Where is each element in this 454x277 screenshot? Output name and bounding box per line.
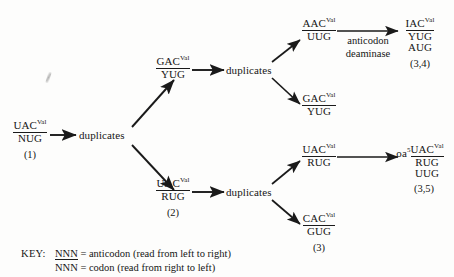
amino-acid-superscript: Val — [326, 16, 336, 24]
key-label: KEY: — [21, 248, 46, 259]
extra-codon-text: AUG — [406, 42, 435, 54]
node-gac-yug-top: GACVal YUG — [153, 56, 193, 82]
node-uac-rug-branch: UACVal RUG — [299, 144, 339, 170]
codon-pair: UACVal RUG UUG — [411, 144, 444, 180]
edge-duplicates-to-gac-yug-branch — [272, 78, 300, 104]
edge-duplicates-to-uac-rug-branch — [272, 161, 300, 184]
amino-acid-superscript: Val — [326, 91, 336, 99]
node-oa5-uac-rug-uug: oa5 UACVal RUG UUG (3,5) — [392, 144, 448, 194]
node-uac-rug-mid: UACVal RUG (2) — [153, 178, 193, 218]
key-symbol-anticodon: NNN — [55, 248, 78, 260]
codon-pair: GACVal YUG — [156, 56, 189, 80]
anticodon-text: UACVal — [302, 144, 335, 157]
amino-acid-superscript: Val — [434, 142, 444, 150]
extra-codon-text: UUG — [411, 168, 444, 180]
codon-text: GUG — [303, 226, 336, 238]
amino-acid-superscript: Val — [326, 211, 336, 219]
key-rows: NNN = anticodon (read from left to right… — [55, 247, 231, 274]
codon-text: RUG — [302, 157, 335, 169]
edge-duplicates-to-aac-uug — [272, 40, 300, 62]
edge-label-anticodon-deaminase: anticodon deaminase — [330, 35, 406, 60]
node-iac-yug-aug: IACVal YUG AUG (3,4) — [399, 18, 441, 69]
anticodon-text: GACVal — [302, 93, 335, 106]
modified-base-prefix: oa5 — [396, 147, 410, 159]
node-duplicates-top: duplicates — [226, 64, 272, 76]
edge-duplicates-to-cac-gug — [272, 200, 300, 224]
codon-pair: UACVal RUG — [302, 144, 335, 168]
key-row-anticodon: NNN = anticodon (read from left to right… — [55, 247, 231, 261]
edge-duplicates-to-gac-yug — [132, 80, 174, 127]
anticodon-text: UACVal — [411, 144, 444, 157]
diagram-canvas: UACVal NUG (1) duplicates GACVal YUG dup… — [0, 0, 454, 277]
anticodon-text: UACVal — [13, 120, 46, 133]
amino-acid-superscript: Val — [425, 16, 435, 24]
codon-pair: CACVal GUG — [303, 213, 336, 237]
amino-acid-superscript: Val — [37, 118, 47, 126]
key-text-codon: = codon (read from right to left) — [80, 262, 215, 273]
node-gac-yug-branch: GACVal YUG — [299, 93, 339, 119]
anticodon-text: UACVal — [156, 178, 189, 191]
reference-label: (3) — [299, 239, 339, 253]
reference-label: (1) — [8, 146, 52, 160]
anticodon-text: AACVal — [302, 18, 335, 31]
codon-text: YUG — [302, 106, 335, 118]
scan-artifact — [45, 72, 51, 83]
reference-label: (2) — [153, 204, 193, 218]
amino-acid-superscript: Val — [180, 54, 190, 62]
anticodon-text: IACVal — [406, 18, 435, 31]
codon-pair: UACVal NUG — [13, 120, 46, 144]
codon-pair: GACVal YUG — [302, 93, 335, 117]
node-cac-gug: CACVal GUG (3) — [299, 213, 339, 253]
key-symbol-codon: NNN — [55, 262, 78, 273]
key-row-codon: NNN = codon (read from right to left) — [55, 261, 231, 275]
key-text-anticodon: = anticodon (read from left to right) — [80, 248, 231, 259]
deaminase-line-2: deaminase — [346, 48, 390, 59]
codon-pair: IACVal YUG AUG — [406, 18, 435, 54]
node-duplicates-root: duplicates — [79, 129, 125, 141]
anticodon-text: GACVal — [156, 56, 189, 69]
node-duplicates-bottom: duplicates — [226, 186, 272, 198]
node-root-uac-nug: UACVal NUG (1) — [8, 120, 52, 160]
codon-text: YUG — [156, 69, 189, 81]
deaminase-line-1: anticodon — [347, 35, 388, 46]
reference-label: (3,5) — [392, 180, 448, 194]
codon-text: RUG — [156, 191, 189, 203]
reference-label: (3,4) — [399, 55, 441, 69]
amino-acid-superscript: Val — [180, 176, 190, 184]
amino-acid-superscript: Val — [326, 142, 336, 150]
codon-pair: UACVal RUG — [156, 178, 189, 202]
codon-text: NUG — [13, 133, 46, 145]
anticodon-text: CACVal — [303, 213, 336, 226]
